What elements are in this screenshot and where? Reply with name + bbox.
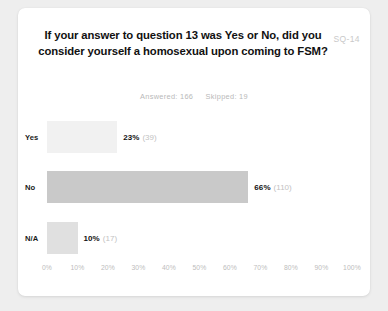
category-label-na: N/A bbox=[25, 234, 47, 243]
bar-chart: Yes 23%(39) No 66%(110) N/A 10%(17) bbox=[18, 112, 370, 296]
value-group-na: 10%(17) bbox=[84, 234, 118, 243]
x-axis: 0%10%20%30%40%50%60%70%80%90%100% bbox=[47, 264, 352, 278]
x-axis-tick: 50% bbox=[192, 264, 206, 271]
chart-row-na: N/A 10%(17) bbox=[18, 215, 370, 261]
bar-no bbox=[47, 171, 248, 203]
bar-yes bbox=[47, 121, 117, 153]
value-percent-no: 66% bbox=[254, 183, 270, 192]
skipped-count: Skipped: 19 bbox=[206, 92, 248, 101]
x-axis-tick: 30% bbox=[131, 264, 145, 271]
value-count-na: (17) bbox=[103, 234, 117, 243]
x-axis-tick: 40% bbox=[162, 264, 176, 271]
value-group-no: 66%(110) bbox=[254, 183, 291, 192]
x-axis-tick: 90% bbox=[314, 264, 328, 271]
x-axis-tick: 0% bbox=[42, 264, 52, 271]
category-label-yes: Yes bbox=[25, 133, 47, 142]
category-label-no: No bbox=[25, 183, 47, 192]
x-axis-tick: 80% bbox=[284, 264, 298, 271]
value-count-no: (110) bbox=[274, 183, 292, 192]
value-percent-yes: 23% bbox=[123, 133, 139, 142]
x-axis-tick: 70% bbox=[253, 264, 267, 271]
x-axis-tick: 100% bbox=[343, 264, 361, 271]
question-code-label: SQ-14 bbox=[333, 34, 360, 44]
x-axis-tick: 20% bbox=[101, 264, 115, 271]
survey-result-card: SQ-14 If your answer to question 13 was … bbox=[18, 8, 370, 296]
response-summary: Answered: 166 Skipped: 19 bbox=[18, 92, 370, 101]
chart-row-yes: Yes 23%(39) bbox=[18, 114, 370, 160]
screenshot-root: SQ-14 If your answer to question 13 was … bbox=[0, 0, 388, 311]
value-percent-na: 10% bbox=[84, 234, 100, 243]
x-axis-tick: 60% bbox=[223, 264, 237, 271]
bar-na bbox=[47, 222, 78, 254]
value-group-yes: 23%(39) bbox=[123, 133, 157, 142]
value-count-yes: (39) bbox=[142, 133, 156, 142]
answered-count: Answered: 166 bbox=[140, 92, 193, 101]
chart-row-no: No 66%(110) bbox=[18, 164, 370, 210]
page-title: If your answer to question 13 was Yes or… bbox=[38, 28, 328, 59]
x-axis-tick: 10% bbox=[70, 264, 84, 271]
